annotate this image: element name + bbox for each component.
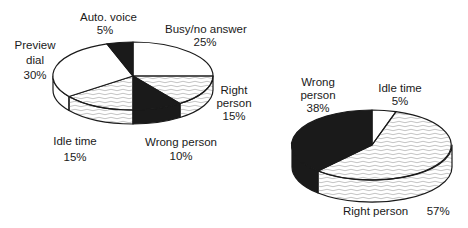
label-right-right-name: Right person (343, 205, 408, 217)
label-preview-line1: Preview (12, 38, 58, 53)
left-pie (53, 42, 213, 124)
label-preview-pct: 30% (12, 68, 58, 83)
label-auto-voice-name: Auto. voice (80, 11, 130, 24)
label-wrong-right-pct: 38% (296, 102, 340, 115)
label-right-line1: Right (214, 84, 254, 97)
label-wrong-name: Wrong person (138, 135, 224, 149)
label-idle-right-name: Idle time (374, 82, 426, 95)
label-right-person-left: Right person 15% (214, 84, 254, 123)
label-preview-line2: dial (12, 53, 58, 68)
label-idle-right: Idle time 5% (374, 82, 426, 108)
label-auto-voice-pct: 5% (80, 24, 130, 37)
label-wrong-right: Wrong person 38% (296, 76, 340, 115)
label-right-line2: person (214, 97, 254, 110)
label-wrong-right-line1: Wrong (296, 76, 340, 89)
right-pie (292, 110, 452, 202)
label-right-pct: 15% (214, 110, 254, 123)
label-wrong-pct: 10% (138, 149, 224, 163)
label-idle-left: Idle time 15% (50, 133, 100, 165)
label-idle-name: Idle time (50, 133, 100, 149)
label-right-person-right: Right person 57% (343, 205, 463, 218)
label-idle-pct: 15% (50, 149, 100, 165)
label-busy: Busy/no answer 25% (165, 23, 245, 49)
label-busy-name: Busy/no answer (165, 23, 245, 36)
label-wrong-right-line2: person (296, 89, 340, 102)
label-idle-right-pct: 5% (374, 95, 426, 108)
label-auto-voice: Auto. voice 5% (80, 11, 130, 37)
label-wrong-left: Wrong person 10% (138, 135, 224, 163)
label-busy-pct: 25% (165, 36, 245, 49)
label-preview: Preview dial 30% (12, 38, 58, 83)
label-right-right-pct: 57% (427, 205, 450, 217)
